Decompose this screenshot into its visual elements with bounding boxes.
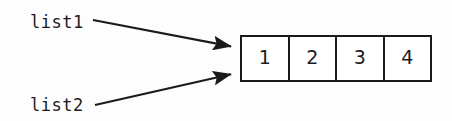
arrow-list1-to-array: [93, 20, 231, 46]
arrow-list2-to-array: [95, 74, 231, 105]
array-cell: 4: [385, 37, 431, 80]
array-box: 1 2 3 4: [240, 35, 432, 82]
pointer-label-list1: list1: [30, 14, 84, 31]
array-cell: 1: [242, 37, 290, 80]
array-cell: 3: [337, 37, 385, 80]
array-cell: 2: [290, 37, 338, 80]
diagram-canvas: list1 list2 1 2 3 4: [0, 0, 452, 121]
array-cell-value: 1: [259, 48, 271, 67]
array-cell-value: 2: [306, 48, 318, 67]
array-cell-value: 3: [354, 48, 366, 67]
array-cell-value: 4: [401, 48, 413, 67]
pointer-label-list2: list2: [30, 97, 84, 114]
